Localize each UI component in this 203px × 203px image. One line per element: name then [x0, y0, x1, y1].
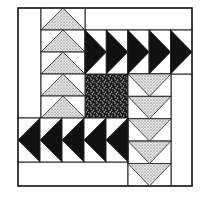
right-strip — [171, 74, 192, 186]
left-strip — [18, 8, 41, 118]
left-geese — [18, 118, 128, 162]
top-strip — [85, 8, 192, 30]
right-geese — [85, 30, 192, 74]
quilt-block-diagram — [0, 0, 203, 203]
down-geese — [128, 74, 171, 186]
bottom-strip — [18, 162, 128, 186]
up-geese — [41, 8, 85, 118]
center-square — [85, 74, 128, 118]
